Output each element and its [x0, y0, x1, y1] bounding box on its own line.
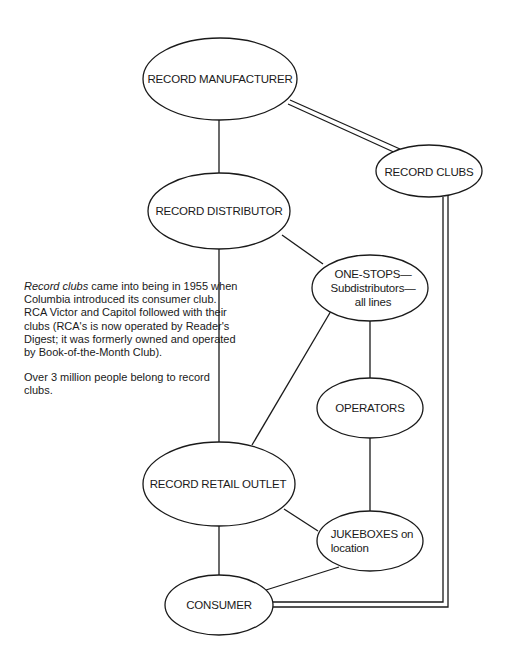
edge-manufacturer-clubs-b	[288, 104, 398, 154]
label-jukeboxes-line2: location	[331, 541, 414, 555]
label-manufacturer: RECORD MANUFACTURER	[147, 72, 292, 86]
label-distributor: RECORD DISTRIBUTOR	[155, 204, 282, 218]
label-operators: OPERATORS	[335, 401, 404, 415]
label-jukeboxes: JUKEBOXES on location	[331, 527, 414, 555]
edge-onestops-retail	[252, 311, 331, 445]
label-retail: RECORD RETAIL OUTLET	[150, 477, 287, 491]
label-one-stops-line2: Subdistributors—	[330, 281, 415, 295]
label-one-stops-line1: ONE-STOPS—	[330, 267, 415, 281]
record-clubs-note: Record clubs came into being in 1955 whe…	[24, 280, 239, 410]
edge-manufacturer-clubs-a	[290, 100, 400, 149]
label-consumer: CONSUMER	[186, 598, 252, 612]
note-paragraph-1: Record clubs came into being in 1955 whe…	[24, 280, 239, 359]
label-jukeboxes-line1: JUKEBOXES on	[331, 527, 414, 541]
note-italic-term: Record clubs	[24, 280, 88, 292]
edge-jukeboxes-consumer	[266, 567, 339, 590]
label-one-stops-line3: all lines	[330, 295, 415, 309]
note-paragraph-2: Over 3 million people belong to record c…	[24, 371, 239, 397]
label-one-stops: ONE-STOPS— Subdistributors— all lines	[330, 267, 415, 309]
edge-distributor-onestops	[282, 235, 323, 264]
label-clubs: RECORD CLUBS	[385, 165, 474, 179]
edge-retail-jukeboxes	[284, 509, 318, 531]
